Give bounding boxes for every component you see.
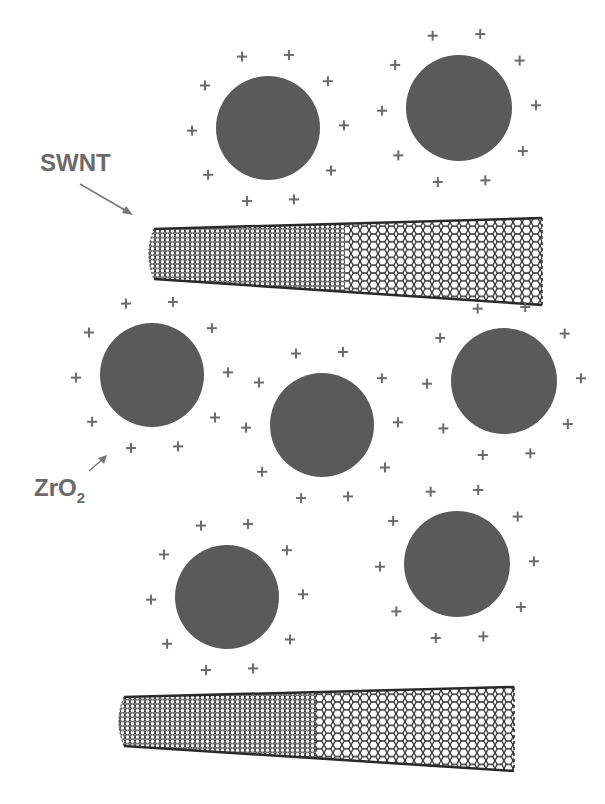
positive-charge-icon: [323, 76, 333, 86]
positive-charge-icon: [146, 595, 156, 605]
zro2-particle: [375, 485, 539, 643]
positive-charge-icon: [377, 373, 387, 383]
particle-core: [406, 55, 512, 161]
positive-charge-icon: [210, 412, 220, 422]
positive-charge-icon: [87, 417, 97, 427]
positive-charge-icon: [339, 120, 349, 130]
particle-core: [216, 76, 320, 180]
zro2-particle: [377, 29, 541, 187]
positive-charge-icon: [438, 423, 448, 433]
positive-charge-icon: [291, 349, 301, 359]
positive-charge-icon: [518, 146, 528, 156]
particle-core: [404, 511, 510, 617]
particle-core: [100, 323, 204, 427]
positive-charge-icon: [525, 448, 535, 458]
positive-charge-icon: [435, 333, 445, 343]
positive-charge-icon: [516, 602, 526, 612]
particle-core: [175, 545, 279, 649]
zro2-particle: [187, 50, 349, 206]
positive-charge-icon: [168, 297, 178, 307]
swnt-arrow-icon: [80, 184, 133, 215]
positive-charge-icon: [428, 31, 438, 41]
positive-charge-icon: [560, 329, 570, 339]
diagram-canvas: SWNT ZrO2: [0, 0, 605, 804]
positive-charge-icon: [243, 519, 253, 529]
positive-charge-icon: [241, 423, 251, 433]
carbon-nanotube: [108, 687, 514, 771]
positive-charge-icon: [563, 419, 573, 429]
positive-charge-icon: [285, 634, 295, 644]
positive-charge-icon: [207, 323, 217, 333]
positive-charge-icon: [121, 299, 131, 309]
positive-charge-icon: [480, 175, 490, 185]
swnt-label: SWNT: [40, 149, 111, 176]
positive-charge-icon: [298, 589, 308, 599]
positive-charge-icon: [388, 516, 398, 526]
zro2-particle: [422, 302, 586, 460]
positive-charge-icon: [422, 379, 432, 389]
positive-charge-icon: [257, 467, 267, 477]
carbon-nanotube: [138, 218, 542, 305]
positive-charge-icon: [84, 328, 94, 338]
positive-charge-icon: [473, 485, 483, 495]
positive-charge-icon: [529, 556, 539, 566]
positive-charge-icon: [187, 126, 197, 136]
positive-charge-icon: [433, 177, 443, 187]
positive-charge-icon: [478, 631, 488, 641]
positive-charge-icon: [426, 487, 436, 497]
positive-charge-icon: [71, 373, 81, 383]
positive-charge-icon: [377, 106, 387, 116]
zro2-arrow-icon: [89, 455, 107, 471]
zro2-label: ZrO2: [34, 474, 85, 506]
zro2-particles-group: [71, 29, 586, 675]
zro2-particle: [71, 297, 233, 453]
positive-charge-icon: [284, 50, 294, 60]
positive-charge-icon: [531, 100, 541, 110]
positive-charge-icon: [473, 304, 483, 314]
positive-charge-icon: [375, 562, 385, 572]
positive-charge-icon: [513, 512, 523, 522]
particle-core: [270, 373, 374, 477]
positive-charge-icon: [338, 347, 348, 357]
positive-charge-icon: [173, 441, 183, 451]
positive-charge-icon: [289, 194, 299, 204]
positive-charge-icon: [162, 639, 172, 649]
positive-charge-icon: [248, 663, 258, 673]
positive-charge-icon: [576, 373, 586, 383]
positive-charge-icon: [223, 367, 233, 377]
positive-charge-icon: [242, 196, 252, 206]
positive-charge-icon: [200, 81, 210, 91]
positive-charge-icon: [196, 521, 206, 531]
positive-charge-icon: [254, 378, 264, 388]
positive-charge-icon: [201, 665, 211, 675]
positive-charge-icon: [431, 633, 441, 643]
particle-core: [451, 328, 557, 434]
positive-charge-icon: [126, 443, 136, 453]
positive-charge-icon: [390, 60, 400, 70]
positive-charge-icon: [159, 550, 169, 560]
positive-charge-icon: [475, 29, 485, 39]
positive-charge-icon: [203, 170, 213, 180]
positive-charge-icon: [393, 417, 403, 427]
positive-charge-icon: [380, 462, 390, 472]
positive-charge-icon: [393, 150, 403, 160]
positive-charge-icon: [237, 52, 247, 62]
positive-charge-icon: [296, 493, 306, 503]
positive-charge-icon: [326, 165, 336, 175]
positive-charge-icon: [478, 450, 488, 460]
swnt-zro2-diagram: SWNT ZrO2: [0, 0, 605, 804]
positive-charge-icon: [391, 606, 401, 616]
zro2-particle: [146, 519, 308, 675]
zro2-particle: [241, 347, 403, 503]
positive-charge-icon: [343, 491, 353, 501]
positive-charge-icon: [282, 545, 292, 555]
positive-charge-icon: [515, 56, 525, 66]
